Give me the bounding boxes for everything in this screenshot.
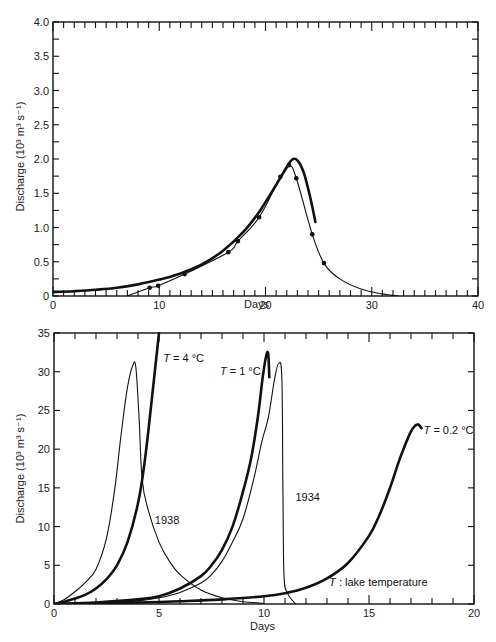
plot-frame: [53, 22, 478, 296]
curve-annotation: T = 4 °C: [163, 352, 204, 364]
y-tick-label: 4.0: [34, 16, 49, 28]
x-tick-label: 10: [258, 607, 270, 619]
curve-annotation: T = 1 °C: [220, 365, 261, 377]
top-x-axis-title: Days: [244, 298, 269, 310]
top-y-axis-title: Discharge (10³ m³ s⁻¹): [14, 97, 27, 217]
y-tick-label: 0.5: [34, 256, 49, 268]
series-line: [54, 352, 269, 604]
top-hydrograph-chart: 01020304000.51.01.52.02.53.03.54.0: [34, 16, 484, 311]
x-tick-label: 15: [363, 607, 375, 619]
data-point-marker: [236, 239, 241, 244]
y-tick-label: 25: [38, 404, 50, 416]
data-point-marker: [257, 215, 262, 220]
bottom-lake-temperature-chart: 0510152005101520253035T = 4 °CT = 1 °C19…: [38, 327, 480, 619]
y-tick-label: 3.5: [34, 50, 49, 62]
curve-annotation: T : lake temperature: [329, 576, 427, 588]
data-point-marker: [182, 272, 187, 277]
y-tick-label: 30: [38, 366, 50, 378]
x-tick-label: 0: [50, 299, 56, 311]
discharge-charts: 01020304000.51.01.52.02.53.03.54.0 05101…: [0, 0, 496, 642]
bottom-x-axis-title: Days: [250, 620, 275, 632]
data-point-marker: [278, 175, 283, 180]
y-tick-label: 10: [38, 521, 50, 533]
x-tick-label: 0: [51, 607, 57, 619]
data-point-marker: [322, 261, 327, 266]
x-tick-label: 30: [366, 299, 378, 311]
y-tick-label: 15: [38, 482, 50, 494]
y-tick-label: 5: [44, 559, 50, 571]
figure: 01020304000.51.01.52.02.53.03.54.0 05101…: [0, 0, 496, 642]
curve-annotation: T = 0.2 °C: [424, 424, 474, 436]
data-point-marker: [287, 163, 292, 168]
y-tick-label: 2.0: [34, 153, 49, 165]
x-tick-label: 5: [156, 607, 162, 619]
series-line: [54, 333, 159, 604]
y-tick-label: 2.5: [34, 119, 49, 131]
x-tick-label: 20: [468, 607, 480, 619]
y-tick-label: 20: [38, 443, 50, 455]
curve-annotation: 1938: [155, 514, 179, 526]
y-tick-label: 3.0: [34, 85, 49, 97]
y-tick-label: 35: [38, 327, 50, 339]
data-point-marker: [226, 250, 231, 255]
data-point-marker: [310, 232, 315, 237]
data-point-marker: [147, 285, 152, 290]
data-point-marker: [156, 283, 161, 288]
y-tick-label: 0: [44, 598, 50, 610]
curve-annotation: 1934: [296, 491, 320, 503]
series-line: [54, 362, 264, 604]
x-tick-label: 40: [472, 299, 484, 311]
y-tick-label: 0: [43, 290, 49, 302]
x-tick-label: 10: [153, 299, 165, 311]
y-tick-label: 1.5: [34, 187, 49, 199]
data-point-marker: [294, 176, 299, 181]
bottom-y-axis-title: Discharge (10³ m³ s⁻¹): [14, 409, 27, 529]
y-tick-label: 1.0: [34, 222, 49, 234]
